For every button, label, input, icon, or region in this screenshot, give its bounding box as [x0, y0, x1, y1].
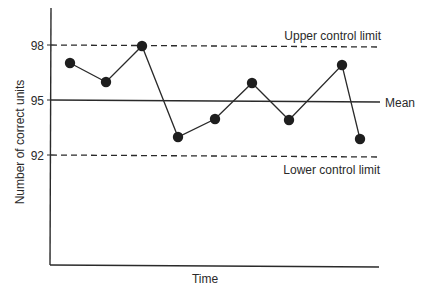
data-point — [337, 60, 347, 70]
x-axis-title: Time — [192, 272, 219, 286]
upper-control-limit-line — [51, 45, 379, 47]
mean-label: Mean — [385, 96, 415, 110]
ucl-label: Upper control limit — [284, 29, 381, 43]
data-point — [137, 41, 147, 51]
data-point — [355, 134, 365, 144]
x-axis — [50, 265, 379, 267]
lower-control-limit-line — [51, 155, 379, 157]
data-point — [210, 114, 220, 124]
y-tick-label-98: 98 — [31, 39, 45, 53]
data-point — [284, 115, 294, 125]
control-chart: 98 95 92 Upper control limit Mean Lower … — [0, 0, 427, 291]
data-series-line — [70, 46, 360, 139]
mean-line — [51, 100, 380, 102]
data-point — [247, 78, 257, 88]
y-axis — [50, 8, 51, 265]
data-point — [173, 132, 183, 142]
data-point — [65, 58, 75, 68]
y-tick-label-92: 92 — [31, 149, 45, 163]
data-points — [65, 41, 365, 144]
y-axis-title: Number of correct units — [13, 80, 27, 205]
lcl-label: Lower control limit — [283, 163, 380, 177]
y-tick-label-95: 95 — [31, 94, 45, 108]
data-point — [101, 77, 111, 87]
